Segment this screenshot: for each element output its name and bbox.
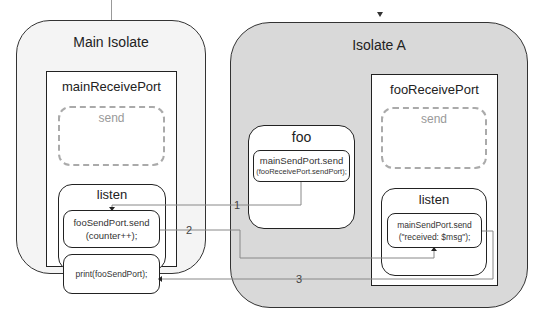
arrow-label-3: 3 <box>296 273 302 285</box>
arrow-label-1: 1 <box>234 199 240 211</box>
arrow-label-2: 2 <box>186 224 192 236</box>
connector-lines <box>0 0 538 332</box>
